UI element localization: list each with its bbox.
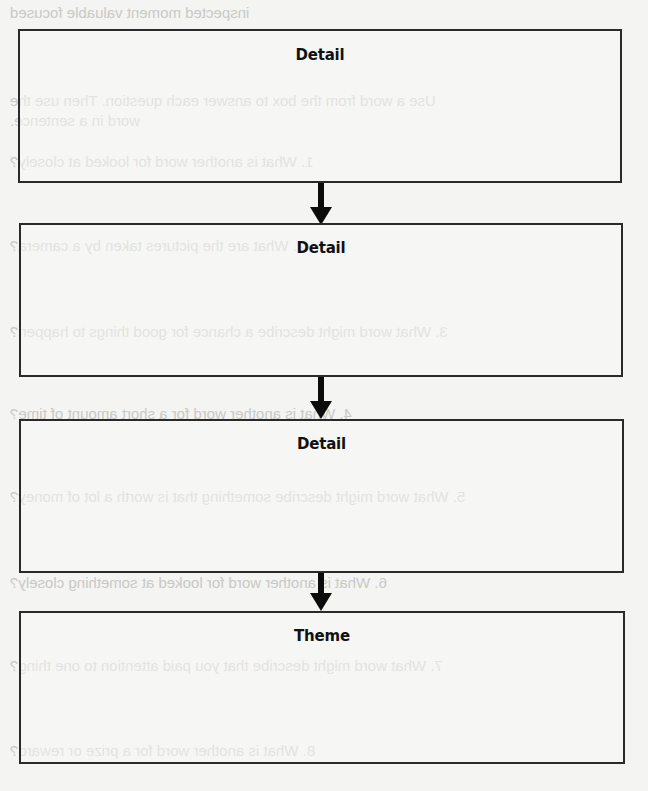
arrow-shaft xyxy=(318,573,324,595)
arrow-shaft xyxy=(318,183,324,209)
arrow-down-icon xyxy=(310,377,332,421)
flowchart-box-detail-2: Detail xyxy=(19,223,623,377)
arrow-shaft xyxy=(318,377,324,403)
box-title: Detail xyxy=(21,239,621,257)
flowchart-box-detail-1: Detail xyxy=(18,29,622,183)
bleed-line: inspected moment valuable focused xyxy=(0,4,648,21)
flowchart-box-detail-3: Detail xyxy=(19,419,624,573)
arrow-down-icon xyxy=(310,573,332,613)
arrow-head xyxy=(310,593,332,611)
box-title: Detail xyxy=(21,435,622,453)
arrow-down-icon xyxy=(310,183,332,225)
flowchart-box-theme: Theme xyxy=(19,611,625,764)
box-title: Theme xyxy=(21,627,623,645)
arrow-head xyxy=(310,401,332,419)
box-title: Detail xyxy=(20,46,620,64)
